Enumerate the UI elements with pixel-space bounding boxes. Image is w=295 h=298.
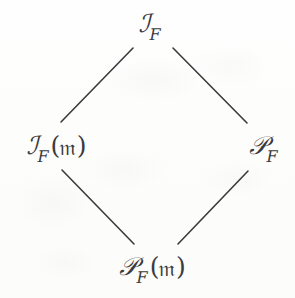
- edge-bottom-to-right: [178, 171, 248, 244]
- node-top-I-F: ℐF: [138, 11, 161, 39]
- node-bottom-close-paren: ): [176, 252, 186, 281]
- node-bottom-P-F-m: 𝒫F(𝔪): [119, 254, 184, 282]
- edge-left-to-top: [61, 48, 133, 122]
- node-left-fraktur-m: 𝔪: [59, 136, 76, 161]
- edge-top-to-right: [173, 48, 247, 123]
- node-right-P-F: 𝒫F: [249, 133, 278, 161]
- node-left-close-paren: ): [77, 131, 87, 160]
- node-left-subscript: F: [37, 147, 48, 166]
- node-right-script-letter: 𝒫: [249, 131, 267, 160]
- lattice-diagram: ℐF ℐF(𝔪) 𝒫F 𝒫F(𝔪): [0, 0, 295, 298]
- node-top-subscript: F: [149, 25, 160, 44]
- node-bottom-subscript: F: [137, 268, 148, 287]
- node-bottom-fraktur-m: 𝔪: [158, 257, 175, 282]
- node-left-I-F-m: ℐF(𝔪): [26, 133, 85, 161]
- node-right-subscript: F: [267, 147, 278, 166]
- node-bottom-script-letter: 𝒫: [119, 252, 137, 281]
- edge-left-to-bottom: [62, 170, 134, 244]
